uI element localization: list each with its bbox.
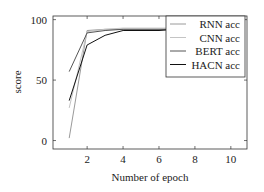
legend-label: BERT acc: [195, 45, 240, 57]
x-tick-label: 4: [120, 153, 126, 165]
y-tick-label: 0: [42, 135, 48, 147]
y-axis-label: score: [11, 70, 23, 93]
line-chart: 246810050100 RNN accCNN accBERT accHACN …: [0, 0, 264, 192]
x-tick-label: 8: [192, 153, 198, 165]
legend-label: HACN acc: [191, 59, 240, 71]
legend: RNN accCNN accBERT accHACN acc: [166, 16, 245, 77]
x-axis-label: Number of epoch: [112, 171, 189, 183]
y-tick-label: 100: [31, 14, 48, 26]
legend-label: RNN acc: [199, 18, 240, 30]
legend-label: CNN acc: [199, 32, 240, 44]
y-tick-label: 50: [36, 74, 48, 86]
x-tick-label: 10: [225, 153, 237, 165]
x-tick-label: 6: [156, 153, 162, 165]
x-tick-label: 2: [84, 153, 90, 165]
